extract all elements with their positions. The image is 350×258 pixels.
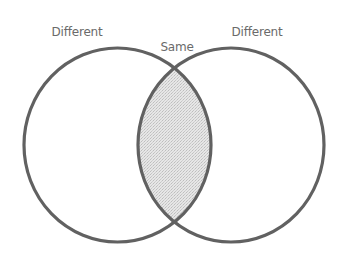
intersection-label: Same bbox=[160, 40, 193, 54]
right-set-label: Different bbox=[232, 25, 283, 39]
left-set-label: Different bbox=[52, 25, 103, 39]
venn-diagram: Different Same Different bbox=[0, 0, 350, 258]
